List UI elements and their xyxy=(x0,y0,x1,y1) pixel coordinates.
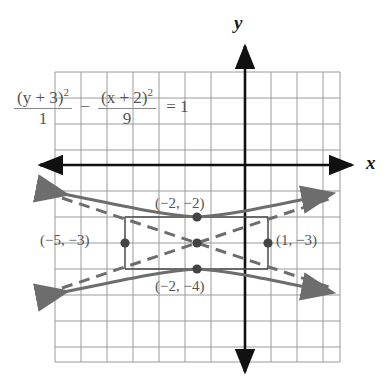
point-label-box-left: (−5, −3) xyxy=(40,232,89,249)
axis-label-y: y xyxy=(234,12,242,34)
point-box-left xyxy=(120,238,129,247)
equation-numerator-2: (x + 2)2 xyxy=(98,86,156,108)
graph-canvas xyxy=(0,0,392,384)
point-label-vertex-lower: (−2, −4) xyxy=(155,278,204,295)
equation-equals: = 1 xyxy=(160,97,188,117)
equation-numerator-1: (y + 3)2 xyxy=(14,86,72,108)
point-center xyxy=(192,238,201,247)
point-vertex-upper xyxy=(192,212,201,221)
equation-exponent-2: 2 xyxy=(147,86,153,98)
point-label-box-right: (1, −3) xyxy=(276,232,317,249)
equation-denominator-2: 9 xyxy=(98,108,156,129)
equation-exponent-1: 2 xyxy=(63,86,69,98)
equation-fraction-1: (y + 3)2 1 xyxy=(14,86,72,129)
equation-fraction-2: (x + 2)2 9 xyxy=(98,86,156,129)
hyperbola-figure: (y + 3)2 1 − (x + 2)2 9 = 1 y x (−2, −2)… xyxy=(0,0,392,384)
equation-denominator-1: 1 xyxy=(14,108,72,129)
equation-operator: − xyxy=(76,97,94,117)
point-vertex-lower xyxy=(192,264,201,273)
equation: (y + 3)2 1 − (x + 2)2 9 = 1 xyxy=(14,86,189,129)
point-label-vertex-upper: (−2, −2) xyxy=(155,195,204,212)
axis-label-x: x xyxy=(366,152,376,174)
point-box-right xyxy=(263,238,272,247)
